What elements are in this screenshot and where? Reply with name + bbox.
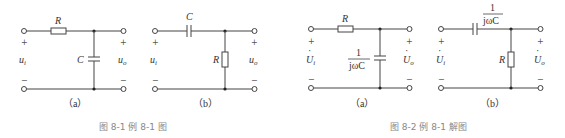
output-voltage-label: uo	[118, 54, 127, 67]
figure-caption: 图 8-1 例 8-1 图	[99, 121, 167, 132]
input-voltage-label: ui	[150, 54, 157, 67]
circuit-8-2-a	[309, 26, 413, 91]
shunt-element-label: R	[498, 54, 505, 65]
subfigure-label: （a）	[350, 98, 374, 109]
plus-sign: +	[152, 38, 159, 47]
shunt-element-label: R	[212, 54, 219, 65]
minus-sign: −	[152, 76, 159, 85]
output-voltage-label: uo	[249, 54, 258, 67]
series-element-label: C	[186, 11, 193, 22]
circuit-diagrams: R + + − − ui uo C （a） C + + − − ui uo R …	[0, 0, 565, 138]
minus-sign: −	[537, 75, 544, 84]
phasor-dot: ·	[308, 45, 311, 56]
resistor-icon	[51, 28, 66, 34]
circuit-8-1-b	[153, 25, 258, 92]
minus-sign: −	[406, 75, 413, 84]
resistor-icon	[222, 52, 228, 67]
minus-sign: −	[438, 75, 445, 84]
series-element-label: R	[54, 15, 61, 26]
plus-sign: +	[251, 38, 258, 47]
series-element-label: R	[341, 13, 348, 24]
impedance-numerator: 1	[356, 47, 361, 58]
resistor-icon	[508, 52, 514, 67]
figure-caption: 图 8-2 例 8-1 解图	[390, 121, 467, 132]
minus-sign: −	[308, 75, 315, 84]
plus-sign: +	[21, 38, 28, 47]
minus-sign: −	[21, 76, 28, 85]
plus-sign: +	[120, 38, 127, 47]
subfigure-label: （b）	[480, 98, 505, 109]
shunt-element-label: C	[77, 54, 84, 65]
input-voltage-label: ui	[19, 54, 26, 67]
subfigure-label: （b）	[193, 98, 218, 109]
phasor-dot: ·	[536, 45, 539, 56]
minus-sign: −	[120, 76, 127, 85]
phasor-dot: ·	[438, 45, 441, 56]
minus-sign: −	[251, 76, 258, 85]
resistor-icon	[338, 26, 353, 32]
impedance-denominator: jωC	[482, 15, 499, 26]
circuit-8-2-b	[439, 23, 544, 91]
phasor-dot: ·	[405, 45, 408, 56]
subfigure-label: （a）	[63, 98, 87, 109]
circuit-8-1-a	[22, 28, 127, 92]
impedance-numerator: 1	[490, 2, 495, 13]
impedance-denominator: jωC	[348, 60, 365, 71]
